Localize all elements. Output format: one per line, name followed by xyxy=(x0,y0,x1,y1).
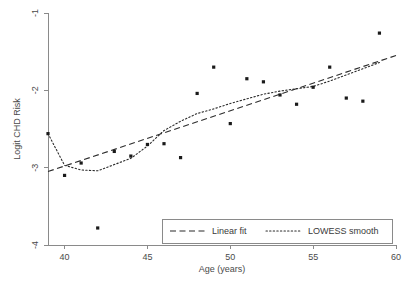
data-point xyxy=(46,132,49,135)
data-point xyxy=(262,80,265,83)
data-point xyxy=(146,143,149,146)
data-point xyxy=(361,100,364,103)
scatter-plot: -1-2-3-4 4045505560 Logit CHD Risk Age (… xyxy=(0,0,405,292)
y-axis: -1-2-3-4 xyxy=(30,9,48,249)
legend: Linear fit LOWESS smooth xyxy=(162,219,392,243)
data-point xyxy=(179,156,182,159)
y-tick-label: -2 xyxy=(30,86,40,94)
y-axis-title: Logit CHD Risk xyxy=(12,98,22,160)
data-points xyxy=(46,32,381,230)
data-point xyxy=(63,174,66,177)
x-tick-label: 60 xyxy=(391,252,401,262)
data-point xyxy=(345,96,348,99)
data-point xyxy=(196,92,199,95)
data-point xyxy=(278,93,281,96)
x-tick-label: 55 xyxy=(308,252,318,262)
data-point xyxy=(80,161,83,164)
chart-container: -1-2-3-4 4045505560 Logit CHD Risk Age (… xyxy=(0,0,405,292)
x-tick-label: 45 xyxy=(142,252,152,262)
data-point xyxy=(328,66,331,69)
legend-label-linear-fit: Linear fit xyxy=(212,226,247,236)
data-point xyxy=(113,150,116,153)
data-point xyxy=(229,122,232,125)
data-point xyxy=(295,103,298,106)
data-point xyxy=(245,77,248,80)
y-axis-ticks: -1-2-3-4 xyxy=(30,9,48,249)
linear-fit-line xyxy=(48,56,396,172)
x-axis-title: Age (years) xyxy=(199,264,246,274)
x-tick-label: 40 xyxy=(60,252,70,262)
data-point xyxy=(212,66,215,69)
data-point xyxy=(312,86,315,89)
y-tick-label: -1 xyxy=(30,9,40,17)
x-tick-label: 50 xyxy=(225,252,235,262)
y-tick-label: -3 xyxy=(30,164,40,172)
y-tick-label: -4 xyxy=(30,241,40,249)
x-axis: 4045505560 xyxy=(48,245,401,262)
data-point xyxy=(162,142,165,145)
data-point xyxy=(378,32,381,35)
legend-label-lowess-smooth: LOWESS smooth xyxy=(308,226,379,236)
x-axis-ticks: 4045505560 xyxy=(60,245,401,262)
data-point xyxy=(96,226,99,229)
data-point xyxy=(129,154,132,157)
